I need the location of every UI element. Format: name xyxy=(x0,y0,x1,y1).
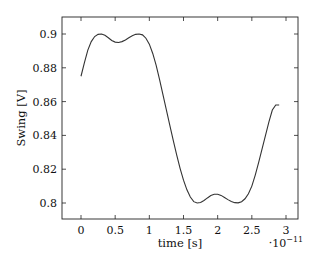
x-tick-label: 0.5 xyxy=(106,224,124,237)
x-tick-label: 1 xyxy=(146,224,153,237)
y-axis-label: Swing [V] xyxy=(14,89,28,146)
x-axis-label: time [s] xyxy=(158,236,203,250)
y-tick-label: 0.8 xyxy=(40,197,58,210)
y-tick-label: 0.82 xyxy=(33,163,58,176)
x-tick-label: 2 xyxy=(214,224,221,237)
x-tick-label: 2.5 xyxy=(243,224,261,237)
axes-frame xyxy=(62,17,298,219)
x-axis-multiplier: ·10−11 xyxy=(269,235,303,250)
x-tick-label: 0 xyxy=(78,224,85,237)
x-axis-multiplier-exponent: −11 xyxy=(286,235,303,244)
plot-area xyxy=(81,34,279,203)
y-tick-label: 0.84 xyxy=(33,129,58,142)
swing-series-line xyxy=(81,34,279,203)
line-chart: 00.511.522.53 0.80.820.840.860.880.9 tim… xyxy=(0,0,315,266)
y-tick-label: 0.9 xyxy=(40,28,58,41)
x-axis-multiplier-base: ·10 xyxy=(269,237,287,250)
y-axis-ticks: 0.80.820.840.860.880.9 xyxy=(33,28,299,210)
x-axis-ticks: 00.511.522.53 xyxy=(78,17,290,237)
y-tick-label: 0.86 xyxy=(33,96,58,109)
y-tick-label: 0.88 xyxy=(33,62,58,75)
